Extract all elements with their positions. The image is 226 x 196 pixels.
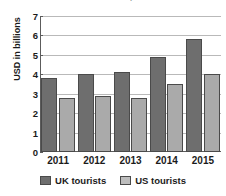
legend-item[interactable]: US tourists <box>120 175 186 186</box>
legend-item[interactable]: UK tourists <box>40 175 106 186</box>
bar <box>204 74 220 152</box>
y-tick-label: 1 <box>26 127 38 138</box>
x-tick-label: 2013 <box>119 155 141 166</box>
y-tick-label: 0 <box>26 147 38 158</box>
bar-group <box>149 16 185 152</box>
y-tick-label: 5 <box>26 49 38 60</box>
legend-label: US tourists <box>135 175 186 186</box>
x-tick-label: 2011 <box>47 155 69 166</box>
bar-group <box>185 16 221 152</box>
bar <box>95 96 111 152</box>
y-tick-label: 3 <box>26 88 38 99</box>
bar-chart: US tourists to UK, 2011-2015 USD in bill… <box>0 0 226 196</box>
bar <box>78 74 94 152</box>
legend-swatch-icon <box>40 176 51 185</box>
bar-group <box>40 16 76 152</box>
bar <box>114 72 130 152</box>
y-tick-mark <box>40 152 43 153</box>
legend-swatch-icon <box>120 176 131 185</box>
y-tick-label: 2 <box>26 108 38 119</box>
legend-label: UK tourists <box>55 175 106 186</box>
bar <box>131 98 147 152</box>
y-tick-label: 7 <box>26 11 38 22</box>
y-axis-title: USD in billions <box>12 0 22 102</box>
x-tick-label: 2015 <box>192 155 214 166</box>
x-tick-label: 2012 <box>83 155 105 166</box>
bar <box>167 84 183 152</box>
bar <box>186 39 202 152</box>
bar-group <box>76 16 112 152</box>
x-tick-label: 2014 <box>156 155 178 166</box>
chart-legend: UK touristsUS tourists <box>0 175 226 186</box>
bar <box>41 78 57 152</box>
y-tick-label: 4 <box>26 69 38 80</box>
y-tick-label: 6 <box>26 30 38 41</box>
bar-series-layer <box>40 16 221 152</box>
chart-title: US tourists to UK, 2011-2015 <box>0 0 226 1</box>
bar <box>150 57 166 152</box>
bar-group <box>112 16 148 152</box>
x-axis-labels: 20112012201320142015 <box>40 155 221 169</box>
bar <box>59 98 75 152</box>
